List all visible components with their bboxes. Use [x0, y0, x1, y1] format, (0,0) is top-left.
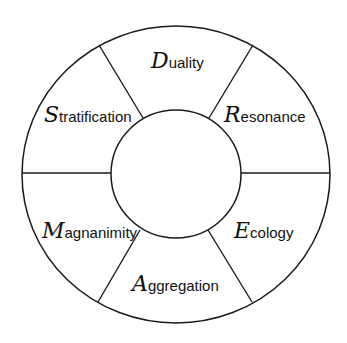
- segment-label-resonance: Resonance: [223, 102, 306, 127]
- segment-rest: uality: [169, 54, 205, 71]
- segment-initial: R: [223, 102, 241, 127]
- segment-label-ecology: Ecology: [233, 218, 294, 243]
- segment-rest: esonance: [241, 108, 306, 125]
- inner-circle: [111, 110, 241, 238]
- segment-initial: D: [150, 48, 169, 73]
- segment-rest: agnanimity: [65, 224, 138, 241]
- segment-label-stratification: Stratification: [44, 102, 132, 127]
- segment-label-duality: Duality: [150, 48, 204, 73]
- segmented-ring-diagram: Duality Resonance Ecology Aggregation Ma…: [0, 0, 347, 343]
- segment-initial: A: [130, 271, 148, 296]
- segment-rest: ggregation: [148, 277, 219, 294]
- segment-initial: M: [41, 218, 65, 243]
- segment-rest: tratification: [59, 108, 132, 125]
- segment-label-aggregation: Aggregation: [130, 271, 219, 296]
- segment-initial: E: [233, 218, 250, 243]
- segment-rest: cology: [250, 224, 294, 241]
- segment-label-magnanimity: Magnanimity: [41, 218, 138, 243]
- segment-initial: S: [44, 102, 59, 127]
